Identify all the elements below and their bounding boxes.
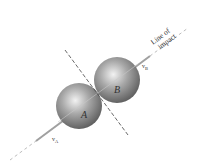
velocity-a-label: vA [52, 136, 59, 144]
sphere-a-label: A [80, 109, 88, 120]
line-of-impact-label: Line of impact [149, 25, 179, 53]
velocity-b-label: vB [142, 63, 148, 71]
sphere-b-label: B [114, 84, 120, 95]
sphere-b [94, 57, 140, 103]
impact-diagram: A B vA vB Line of impact [0, 0, 200, 167]
sphere-a [56, 83, 102, 129]
